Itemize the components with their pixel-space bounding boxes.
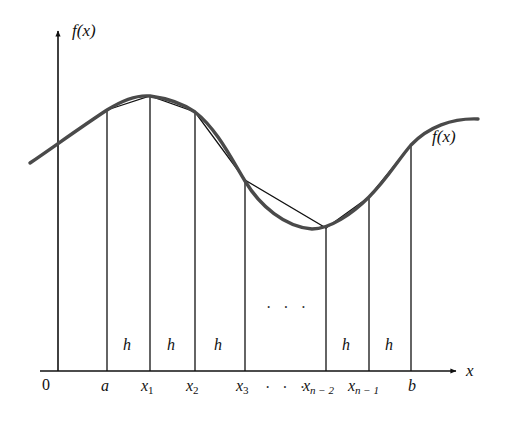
- h-label-1: h: [123, 337, 131, 353]
- axis-ellipsis: · · ·: [265, 380, 309, 396]
- tick-label-a: a: [101, 378, 109, 396]
- y-axis-label-text: f(x): [72, 21, 96, 40]
- h-label-2: h: [167, 337, 175, 353]
- tick-label-b: b: [408, 378, 416, 396]
- tick-label-x1: x1: [141, 378, 154, 396]
- trapezoid-chords: [107, 96, 411, 228]
- y-axis-label: f(x): [72, 22, 96, 39]
- h-label-5: h: [385, 337, 393, 353]
- figure-canvas: [0, 0, 506, 428]
- x-axis-label: x: [466, 362, 474, 379]
- trapezoidal-rule-figure: f(x) x 0 f(x) a x1 x2 x3 xn − 2 xn − 1 b…: [0, 0, 506, 428]
- tick-label-xn-1: xn − 1: [348, 378, 379, 396]
- middle-ellipsis: · · ·: [266, 300, 310, 316]
- tick-label-x3: x3: [236, 378, 249, 396]
- curve-label-text: f(x): [432, 127, 456, 146]
- h-label-4: h: [342, 337, 350, 353]
- curve-label: f(x): [432, 128, 456, 145]
- h-label-3: h: [214, 337, 222, 353]
- origin-label: 0: [42, 377, 50, 393]
- ordinate-lines: [107, 96, 411, 371]
- tick-label-x2: x2: [186, 378, 199, 396]
